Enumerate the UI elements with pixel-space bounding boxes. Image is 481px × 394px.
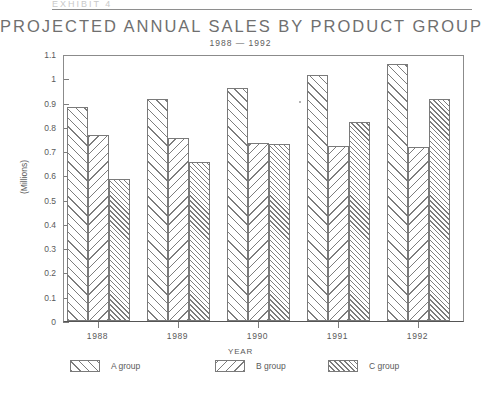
y-axis-tick-mark — [63, 322, 69, 323]
bar-1992-b-group — [408, 147, 429, 321]
bar-1990-c-group — [269, 144, 290, 321]
y-axis-tick-label: 0.4 — [44, 220, 56, 230]
bar-1989-b-group — [168, 138, 189, 321]
y-axis-tick-label: 1.1 — [44, 50, 56, 60]
y-axis-tick-label: 0 — [51, 317, 56, 327]
y-axis-tick-label: 0.8 — [44, 123, 56, 133]
y-axis-tick-label: 0.5 — [44, 196, 56, 206]
y-axis-tick-label: 0.1 — [44, 293, 56, 303]
y-axis-tick-label: 0.7 — [44, 147, 56, 157]
bar-1990-b-group — [248, 143, 269, 321]
x-axis-tick-label: 1991 — [327, 331, 348, 341]
bar-series-container — [64, 56, 463, 321]
bar-1990-a-group — [227, 88, 248, 321]
y-axis-tick-label: 0.3 — [44, 244, 56, 254]
header-divider — [52, 9, 472, 10]
x-axis-tick-mark — [98, 322, 99, 328]
x-axis-tick-mark — [418, 322, 419, 328]
chart-page: EXHIBIT 4 PROJECTED ANNUAL SALES BY PROD… — [0, 0, 481, 394]
legend-label: C group — [369, 361, 399, 371]
chart-legend: A groupB groupC group — [0, 358, 481, 378]
y-axis-tick-label: 0.6 — [44, 171, 56, 181]
cut-off-header-text: EXHIBIT 4 — [52, 0, 182, 7]
y-axis-tick-label: 0.2 — [44, 268, 56, 278]
x-axis-tick-label: 1989 — [167, 331, 188, 341]
bar-1988-c-group — [109, 179, 130, 321]
legend-swatch-icon — [328, 360, 358, 372]
legend-swatch-icon — [215, 360, 245, 372]
chart-title: PROJECTED ANNUAL SALES BY PRODUCT GROUP — [0, 17, 481, 36]
bar-1989-a-group — [147, 99, 168, 321]
chart-subtitle: 1988 — 1992 — [0, 38, 481, 48]
bar-1991-c-group — [349, 122, 370, 321]
x-axis-tick-label: 1988 — [87, 331, 108, 341]
legend-label: B group — [256, 361, 286, 371]
bar-1992-c-group — [429, 99, 450, 321]
bar-1992-a-group — [387, 64, 408, 321]
y-axis-tick-labels: 1.110.90.80.70.60.50.40.30.20.10 — [16, 0, 56, 394]
x-axis-tick-mark — [338, 322, 339, 328]
bar-1991-a-group — [307, 75, 328, 321]
x-axis-label: YEAR — [0, 347, 481, 356]
legend-swatch-icon — [70, 360, 100, 372]
image-speck-artifact — [299, 101, 301, 103]
plot-area — [63, 55, 464, 322]
bar-1988-b-group — [88, 135, 109, 321]
legend-label: A group — [111, 361, 140, 371]
bar-1988-a-group — [67, 107, 88, 321]
x-axis-tick-label: 1990 — [247, 331, 268, 341]
x-axis-tick-mark — [178, 322, 179, 328]
x-axis-tick-label: 1992 — [407, 331, 428, 341]
y-axis-tick-label: 0.9 — [44, 99, 56, 109]
x-axis-tick-mark — [258, 322, 259, 328]
bar-1991-b-group — [328, 146, 349, 321]
y-axis-tick-label: 1 — [51, 74, 56, 84]
bar-1989-c-group — [189, 162, 210, 321]
